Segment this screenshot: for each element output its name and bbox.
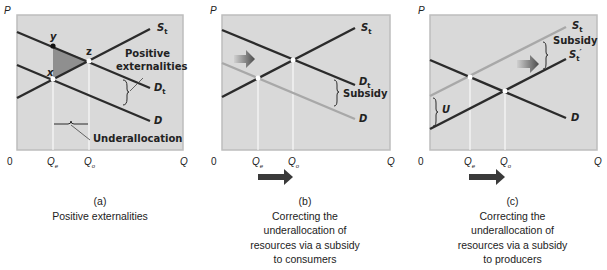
annotation-underallocation: Underallocation [93, 133, 182, 144]
label-d: D [571, 112, 579, 123]
panel-c: P St Subsidy St′ D U 0 Qe Qo Q (c) Corre… [400, 0, 607, 270]
origin-label: 0 [211, 156, 217, 167]
equilibrium-o [291, 58, 296, 63]
panel-label: (c) [410, 194, 607, 209]
origin-label: 0 [418, 156, 424, 167]
tick-qe: Qe [464, 156, 475, 169]
tick-qo: Qo [500, 156, 511, 169]
caption-line: underallocation of [200, 223, 410, 238]
caption-c: (c) Correcting the underallocation of re… [410, 194, 607, 267]
label-point-x: x [47, 67, 53, 78]
point-z [87, 59, 92, 64]
equilibrium-e [256, 76, 261, 81]
label-st-prime: St′ [569, 49, 582, 63]
axis-label-q: Q [387, 156, 395, 167]
caption-a: (a) Positive externalities [0, 194, 200, 223]
label-d: D [154, 115, 162, 126]
label-st: St [572, 20, 583, 34]
annotation-externalities: externalities [116, 61, 187, 72]
point-y [50, 43, 55, 48]
origin-label: 0 [7, 156, 13, 167]
caption-line: to producers [410, 252, 607, 267]
caption-line: Positive externalities [0, 209, 200, 224]
quantity-increase-arrow-icon [469, 169, 505, 185]
label-st: St [361, 22, 372, 36]
panel-label: (b) [200, 194, 410, 209]
caption-line: underallocation of [410, 223, 607, 238]
quantity-increase-arrow-icon [258, 169, 293, 185]
annotation-subsidy: Subsidy [553, 35, 598, 46]
tick-qo: Qo [288, 156, 299, 169]
caption-line: Correcting the [200, 209, 410, 224]
equilibrium-o [503, 89, 508, 94]
label-u: U [442, 104, 450, 115]
label-dt: Dt [154, 82, 166, 96]
label-d: D [359, 113, 367, 124]
panel-label: (a) [0, 194, 200, 209]
caption-line: resources via a subsidy [410, 238, 607, 253]
label-point-y: y [50, 31, 57, 42]
caption-line: resources via a subsidy [200, 238, 410, 253]
tick-qo: Qo [84, 156, 95, 169]
axis-label-p: P [4, 5, 11, 16]
axis-label-q: Q [180, 156, 188, 167]
label-st: St [157, 22, 168, 36]
equilibrium-e [468, 75, 473, 80]
annotation-positive: Positive [125, 48, 170, 59]
caption-line: to consumers [200, 252, 410, 267]
tick-qe: Qe [47, 156, 58, 169]
label-point-z: z [86, 46, 92, 57]
axis-label-q: Q [594, 156, 602, 167]
annotation-subsidy: Subsidy [343, 88, 388, 99]
caption-b: (b) Correcting the underallocation of re… [200, 194, 410, 267]
caption-line: Correcting the [410, 209, 607, 224]
axis-label-p: P [210, 5, 217, 16]
panel-b: P St Dt D Subsidy 0 Qe Qo Q (b) Correcti… [200, 0, 400, 270]
axis-label-p: P [418, 5, 425, 16]
panel-a: P St Dt D y x z Positive externalities U… [0, 0, 200, 270]
tick-qe: Qe [252, 156, 263, 169]
